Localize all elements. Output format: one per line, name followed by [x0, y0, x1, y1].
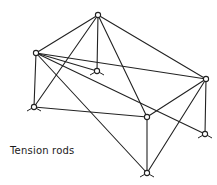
tension-rods-label: Tension rods [10, 145, 75, 156]
joint-lower-right [198, 131, 212, 138]
rod-T-R [98, 15, 206, 79]
rod-L-R [36, 53, 206, 79]
joint-circle-icon [144, 170, 149, 175]
joint-apex-top [95, 12, 100, 17]
joint-circle-icon [33, 50, 38, 55]
rod-L-LL [34, 53, 36, 107]
joint-middle-front [144, 114, 149, 119]
joint-bottom [140, 170, 154, 177]
joint-circle-icon [95, 12, 100, 17]
tension-rod-frame-diagram [0, 0, 217, 185]
joint-upper-left [33, 50, 38, 55]
joint-circle-icon [203, 76, 208, 81]
joint-circle-icon [202, 131, 207, 136]
joint-circle-icon [144, 114, 149, 119]
joint-circle-icon [31, 104, 36, 109]
joint-circle-icon [94, 68, 99, 73]
rod-LL-M [34, 107, 147, 117]
joint-right [203, 76, 208, 81]
rod-T-L [36, 15, 98, 53]
rod-R-RL [205, 79, 206, 134]
rod-M-R [147, 79, 206, 117]
rod-R-B [147, 79, 206, 173]
rod-L-C [36, 53, 97, 71]
